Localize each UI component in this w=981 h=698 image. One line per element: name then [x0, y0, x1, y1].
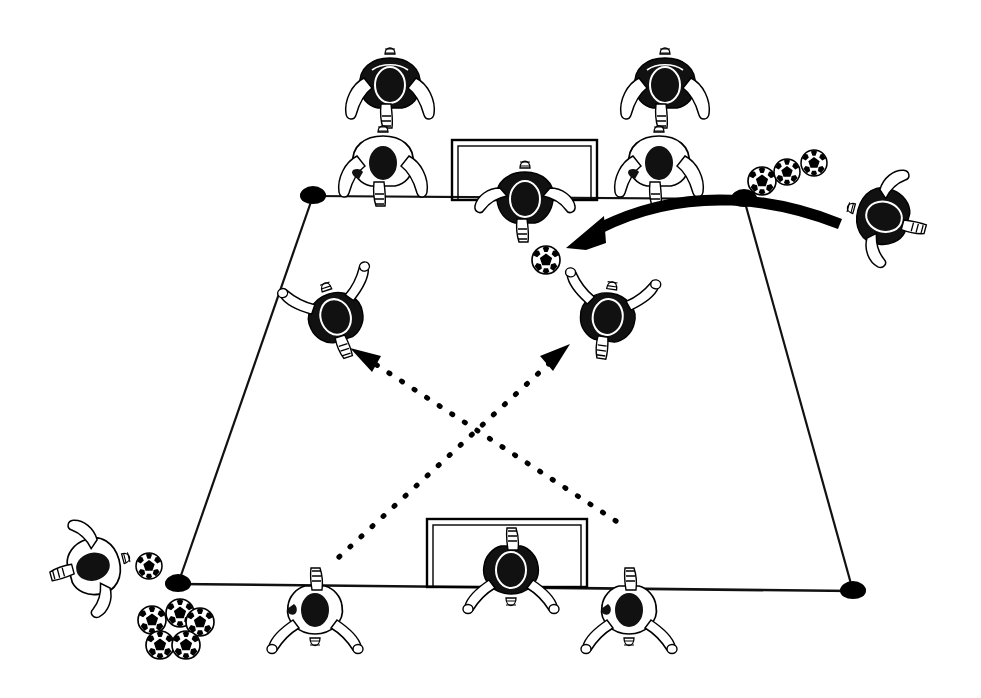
server-bottom-left-white — [38, 509, 142, 627]
ball-pass-target — [532, 246, 560, 274]
ball-supply-top-c — [801, 150, 827, 176]
field-line-right — [744, 199, 853, 591]
ball-left-single — [136, 553, 162, 579]
goalkeeper-bottom-dark — [463, 528, 559, 614]
thick-curved-ball-path-arrow — [566, 200, 840, 250]
dotted-run-arrow-to-left-attacker — [350, 348, 616, 521]
ball-pile-4 — [146, 631, 174, 659]
cone-top-left — [300, 186, 326, 204]
ball-pile-5 — [172, 631, 200, 659]
diagram-canvas: Soccer crossing and finishing drill blac… — [0, 0, 981, 698]
goalkeeper-top-dark — [475, 161, 575, 242]
cone-bottom-left — [165, 574, 191, 592]
soccer-drill-svg — [0, 0, 981, 698]
server-right-dark — [835, 159, 939, 277]
player-goal-line-left-white — [339, 126, 428, 206]
player-top-row-right-dark — [621, 48, 710, 128]
player-top-row-left-dark — [346, 48, 435, 128]
ball-supply-top-b — [774, 159, 800, 185]
cone-bottom-right — [840, 581, 866, 599]
player-bottom-right-white — [581, 568, 677, 654]
field-line-left — [178, 196, 313, 584]
attacker-right-dark — [554, 267, 661, 365]
player-bottom-left-white — [267, 568, 363, 654]
ball-supply-top-a — [748, 167, 776, 195]
ball-pile-1 — [138, 606, 166, 634]
player-goal-line-right-white — [615, 126, 704, 206]
